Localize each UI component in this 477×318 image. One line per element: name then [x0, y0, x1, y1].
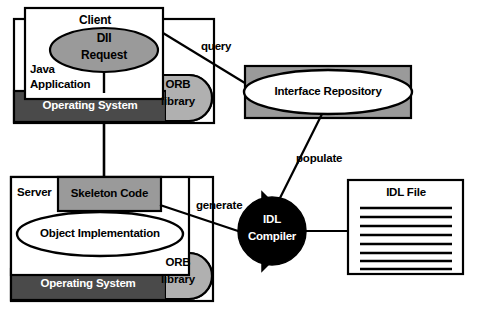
edge-generate-label: generate [196, 199, 242, 211]
operating-system-top-label: Operating System [18, 99, 162, 111]
dii-request-label-line2: Request [68, 49, 140, 62]
corba-architecture-diagram: Client DII Request Java Application ORB … [0, 0, 477, 318]
idl-compiler-label-line2: Compiler [240, 230, 304, 242]
orb-library-bottom-label-line1: ORB [155, 256, 201, 268]
edge-query-label: query [201, 40, 231, 52]
dii-request-label-line1: DII [76, 32, 132, 45]
operating-system-bottom-label: Operating System [15, 277, 161, 289]
idl-file-label: IDL File [369, 186, 443, 198]
diagram-canvas [0, 0, 477, 318]
java-application-label-line2: Application [30, 78, 90, 90]
object-implementation-label: Object Implementation [30, 227, 170, 239]
server-label: Server [17, 186, 52, 198]
skeleton-code-label: Skeleton Code [60, 187, 159, 199]
idl-compiler-label-line1: IDL [249, 213, 295, 225]
client-label: Client [72, 14, 118, 27]
edge-populate-label: populate [296, 152, 342, 164]
java-application-label-line1: Java [30, 63, 55, 75]
orb-library-top-label-line1: ORB [155, 78, 201, 90]
interface-repository-label: Interface Repository [258, 85, 398, 97]
